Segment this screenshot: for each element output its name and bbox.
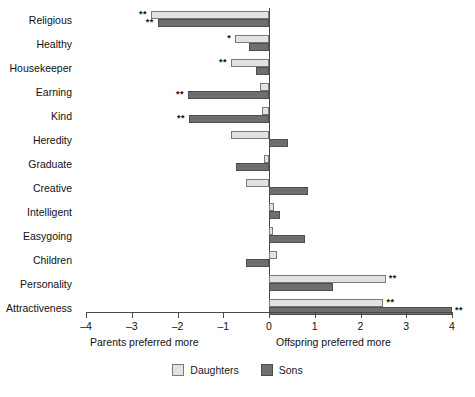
significance-marker: ** — [176, 90, 188, 98]
x-axis-tick — [452, 312, 453, 318]
significance-marker: ** — [383, 298, 394, 306]
bar-sons — [269, 139, 288, 147]
significance-marker: ** — [177, 114, 189, 122]
bar-daughters — [269, 251, 277, 259]
x-axis-tick-label: –2 — [172, 320, 184, 332]
x-axis-tick — [223, 312, 224, 318]
x-axis-tick-label: 4 — [449, 320, 455, 332]
bar-sons — [269, 235, 305, 243]
bar-daughters — [262, 107, 269, 115]
y-axis-label: Heredity — [0, 128, 78, 152]
bar-daughters — [231, 131, 269, 139]
bar-daughters — [269, 203, 274, 211]
bar-sons — [249, 43, 269, 51]
y-axis-label: Religious — [0, 8, 78, 32]
axis-caption-left: Parents preferred more — [90, 336, 199, 348]
bar-sons — [236, 163, 269, 171]
bar-group — [86, 176, 452, 200]
y-axis-label: Personality — [0, 272, 78, 296]
bar-group — [86, 128, 452, 152]
bar-group — [86, 152, 452, 176]
x-axis-tick-label: 2 — [358, 320, 364, 332]
y-axis-label: Children — [0, 248, 78, 272]
bar-daughters — [269, 299, 383, 307]
bar-chart: ReligiousHealthyHousekeeperEarningKindHe… — [0, 0, 475, 397]
x-axis-tick-label: 1 — [312, 320, 318, 332]
bar-daughters — [151, 11, 269, 19]
bar-group — [86, 200, 452, 224]
bar-sons — [269, 187, 308, 195]
bar-daughters — [231, 59, 269, 67]
legend-swatch-sons — [261, 364, 273, 376]
bar-group: ** — [86, 272, 452, 296]
significance-marker: * — [227, 34, 235, 42]
bar-sons — [269, 211, 280, 219]
bar-daughters — [246, 179, 269, 187]
x-axis-tick — [178, 312, 179, 318]
x-axis-tick-label: –1 — [217, 320, 229, 332]
x-axis-tick — [315, 312, 316, 318]
y-axis-label: Attractiveness — [0, 296, 78, 320]
significance-marker: ** — [146, 18, 158, 26]
bar-sons — [188, 91, 269, 99]
x-axis-tick — [269, 312, 270, 318]
y-axis-label: Kind — [0, 104, 78, 128]
bar-daughters — [269, 275, 386, 283]
bar-group: ** — [86, 104, 452, 128]
bar-group: * — [86, 32, 452, 56]
y-axis-label: Intelligent — [0, 200, 78, 224]
plot-area: ***************** — [86, 8, 452, 312]
y-axis-label: Graduate — [0, 152, 78, 176]
bar-daughters — [269, 227, 273, 235]
significance-marker: ** — [452, 306, 463, 314]
x-axis-tick — [132, 312, 133, 318]
bar-daughters — [235, 35, 269, 43]
bar-group: ** — [86, 80, 452, 104]
bar-sons — [189, 115, 269, 123]
y-axis-category-labels: ReligiousHealthyHousekeeperEarningKindHe… — [0, 8, 78, 312]
x-axis-tick-label: 0 — [266, 320, 272, 332]
bar-group: **** — [86, 8, 452, 32]
bar-group — [86, 248, 452, 272]
bar-group: ** — [86, 56, 452, 80]
y-axis-label: Housekeeper — [0, 56, 78, 80]
legend-label: Sons — [279, 364, 303, 376]
x-axis-tick-label: –4 — [80, 320, 92, 332]
legend-item: Sons — [261, 364, 303, 376]
significance-marker: ** — [386, 274, 397, 282]
x-axis-tick-label: 3 — [403, 320, 409, 332]
y-axis-label: Earning — [0, 80, 78, 104]
legend-item: Daughters — [172, 364, 238, 376]
x-axis-tick — [361, 312, 362, 318]
y-axis-label: Healthy — [0, 32, 78, 56]
x-axis-tick-label: –3 — [126, 320, 138, 332]
x-axis-tick — [406, 312, 407, 318]
legend-label: Daughters — [190, 364, 238, 376]
axis-caption-right: Offspring preferred more — [276, 336, 391, 348]
significance-marker: ** — [219, 58, 231, 66]
bar-sons — [158, 19, 269, 27]
bar-daughters — [264, 155, 269, 163]
x-axis-tick — [86, 312, 87, 318]
legend-swatch-daughters — [172, 364, 184, 376]
chart-legend: DaughtersSons — [0, 364, 475, 376]
bar-sons — [256, 67, 269, 75]
y-axis-label: Easygoing — [0, 224, 78, 248]
bar-group — [86, 224, 452, 248]
bar-sons — [269, 283, 333, 291]
bar-daughters — [260, 83, 269, 91]
y-axis-label: Creative — [0, 176, 78, 200]
bar-sons — [246, 259, 269, 267]
